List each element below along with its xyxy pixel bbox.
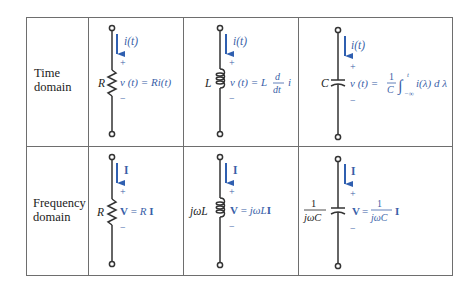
equation: V = R I [120,205,153,217]
resistor-time [108,25,116,136]
svg-text:v (t) =: v (t) = [350,77,378,90]
equation: V = jωLI [230,204,271,216]
element-label: C [321,77,329,89]
current-label: i(t) [351,39,365,52]
element-label: L [204,77,211,89]
svg-text:∫: ∫ [397,77,404,96]
svg-text:dt: dt [273,84,281,95]
current-label: I [233,164,238,176]
svg-text:i: i [288,76,291,88]
equation: v (t) = Ri(t) [120,76,171,89]
minus-sign: − [350,95,356,106]
svg-text:jωC: jωC [302,212,322,223]
svg-text:V = jωLI: V = jωLI [230,204,271,216]
minus-sign: − [229,221,235,232]
equation: v (t) = L d dt i [230,71,291,95]
element-label: R [97,77,105,89]
svg-text:jωC: jωC [369,212,388,223]
minus-sign: − [229,93,235,104]
circuit-diagrams: i(t) + R v (t) = Ri(t) − i(t) + L v (t) … [0,0,475,290]
svg-text:1: 1 [389,71,394,82]
current-label: i(t) [233,35,247,48]
element-label: jωL [188,205,208,218]
plus-sign: + [120,186,126,197]
resistor-frequency [108,154,116,266]
element-label: R [96,206,104,218]
svg-text:i(λ) d λ: i(λ) d λ [416,77,447,90]
inductor-frequency [216,154,224,267]
plus-sign: + [229,186,235,197]
minus-sign: − [120,222,126,233]
svg-text:v (t) = L: v (t) = L [230,76,267,89]
svg-text:I: I [395,205,399,217]
svg-text:t: t [407,71,410,79]
svg-text:−∞: −∞ [404,90,414,98]
minus-sign: − [350,223,356,234]
capacitor-frequency [331,156,345,268]
capacitor-time [331,27,345,139]
svg-text:C: C [387,84,394,95]
equation: v (t) = 1 C ∫ t −∞ i(λ) d λ [350,71,447,98]
current-label: I [124,164,129,176]
svg-text:=: = [362,205,368,217]
svg-text:1: 1 [377,198,382,209]
plus-sign: + [350,61,356,72]
current-label: i(t) [124,35,138,48]
plus-sign: + [350,188,356,199]
plus-sign: + [229,57,235,68]
svg-text:d: d [275,71,281,82]
svg-text:1: 1 [311,198,316,209]
svg-text:V: V [352,205,360,217]
inductor-time [216,25,224,136]
equation: V = 1 jωC I [352,198,399,223]
plus-sign: + [120,57,126,68]
minus-sign: − [120,93,126,104]
element-label: 1 jωC [302,198,326,223]
current-label: I [351,165,356,177]
svg-text:V = R I: V = R I [120,205,153,217]
